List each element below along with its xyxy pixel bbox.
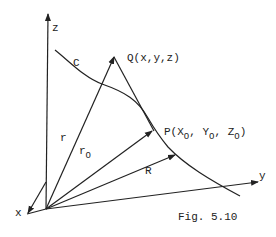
vector-r: [46, 57, 114, 209]
q-to-curve-line: [114, 57, 154, 131]
vector-r0-label: rO: [79, 145, 91, 161]
z-axis: [46, 14, 48, 209]
curve-c-label: C: [73, 57, 80, 69]
x-axis-ext: [28, 182, 46, 213]
figure-5-10: z y x C Q(x,y,z) P(XO, YO, ZO) r rO R Fi…: [0, 0, 276, 237]
point-q-label: Q(x,y,z): [127, 52, 180, 64]
vector-R-label: R: [145, 165, 152, 177]
point-p-label: P(XO, YO, ZO): [164, 126, 246, 142]
y-axis-label: y: [259, 170, 266, 182]
z-axis-label: z: [52, 22, 59, 34]
x-axis-label: x: [15, 207, 22, 219]
figure-caption: Fig. 5.10: [178, 211, 237, 223]
vector-r-label: r: [60, 132, 67, 144]
